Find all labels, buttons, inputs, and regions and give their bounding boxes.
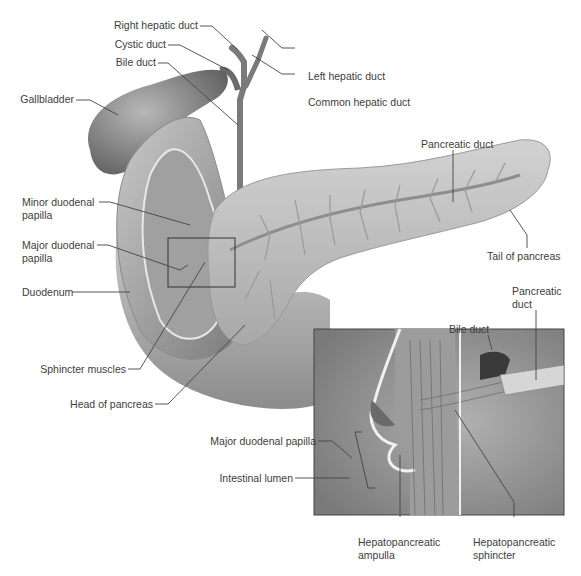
inset-label-pancreatic-duct-line1: Pancreatic	[512, 285, 562, 298]
label-common-hepatic-duct: Common hepatic duct	[308, 96, 410, 109]
inset-label-intestinal-lumen: Intestinal lumen	[150, 472, 293, 485]
inset-label-major-duodenal-papilla: Major duodenal papilla	[150, 435, 316, 448]
inset-label-sphincter-line2: sphincter	[473, 549, 555, 562]
label-major-duodenal-papilla-line2: papilla	[22, 252, 94, 265]
label-minor-duodenal-papilla-line2: papilla	[22, 209, 94, 222]
inset-label-bile-duct: Bile duct	[449, 323, 489, 336]
label-bile-duct: Bile duct	[90, 56, 156, 69]
label-gallbladder: Gallbladder	[0, 93, 74, 106]
label-minor-duodenal-papilla-line1: Minor duodenal	[22, 196, 94, 209]
inset-label-sphincter-line1: Hepatopancreatic	[473, 536, 555, 549]
pancreas-shape	[208, 140, 550, 345]
label-tail-of-pancreas: Tail of pancreas	[487, 250, 561, 263]
label-right-hepatic-duct: Right hepatic duct	[100, 19, 198, 32]
label-head-of-pancreas: Head of pancreas	[0, 398, 153, 411]
label-left-hepatic-duct: Left hepatic duct	[308, 70, 385, 83]
inset-label-ampulla-line1: Hepatopancreatic	[358, 536, 440, 549]
inset-label-hepatopancreatic-ampulla: Hepatopancreatic ampulla	[358, 536, 440, 562]
inset-label-pancreatic-duct: Pancreatic duct	[512, 285, 562, 311]
label-duodenum: Duodenum	[22, 286, 73, 299]
label-pancreatic-duct: Pancreatic duct	[421, 138, 493, 151]
label-sphincter-muscles: Sphincter muscles	[0, 363, 126, 376]
label-cystic-duct: Cystic duct	[90, 38, 166, 51]
inset-label-pancreatic-duct-line2: duct	[512, 298, 562, 311]
label-major-duodenal-papilla: Major duodenal papilla	[22, 239, 94, 265]
inset-label-hepatopancreatic-sphincter: Hepatopancreatic sphincter	[473, 536, 555, 562]
inset-label-ampulla-line2: ampulla	[358, 549, 440, 562]
label-minor-duodenal-papilla: Minor duodenal papilla	[22, 196, 94, 222]
label-major-duodenal-papilla-line1: Major duodenal	[22, 239, 94, 252]
anatomy-illustration	[0, 0, 581, 576]
inset-panel	[314, 329, 564, 515]
